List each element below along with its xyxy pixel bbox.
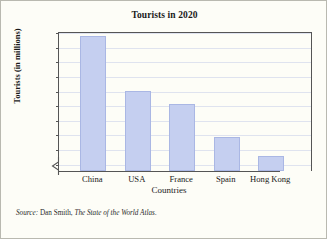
x-category-label: Hong Kong: [230, 174, 310, 184]
x-axis-title: Countries: [58, 185, 280, 195]
bar: [258, 156, 284, 171]
chart-title: Tourists in 2020: [1, 10, 327, 20]
y-tick-mark: [56, 150, 60, 151]
y-tick-mark: [56, 48, 60, 49]
chart-figure: Tourists in 2020 Tourists (in millions) …: [0, 0, 327, 239]
source-book-title: The State of the World Atlas.: [74, 209, 156, 217]
source-prefix: Source:: [16, 209, 38, 217]
y-tick-mark: [56, 121, 60, 122]
y-tick-mark: [56, 106, 60, 107]
source-author: Dan Smith,: [40, 209, 73, 217]
y-axis-title: Tourists (in millions): [12, 1, 22, 131]
y-tick-mark: [56, 92, 60, 93]
y-tick-mark: [56, 135, 60, 136]
bar: [125, 91, 151, 171]
gridline: [59, 33, 311, 34]
axis-break-icon: [49, 157, 65, 175]
plot-area: [58, 32, 312, 171]
y-tick-mark: [56, 62, 60, 63]
x-axis-line: [58, 171, 280, 172]
bar: [80, 36, 106, 171]
bar: [169, 104, 195, 171]
y-tick-mark: [56, 33, 60, 34]
bar: [214, 137, 240, 171]
y-tick-mark: [56, 77, 60, 78]
source-note: Source: Dan Smith, The State of the Worl…: [16, 209, 157, 217]
